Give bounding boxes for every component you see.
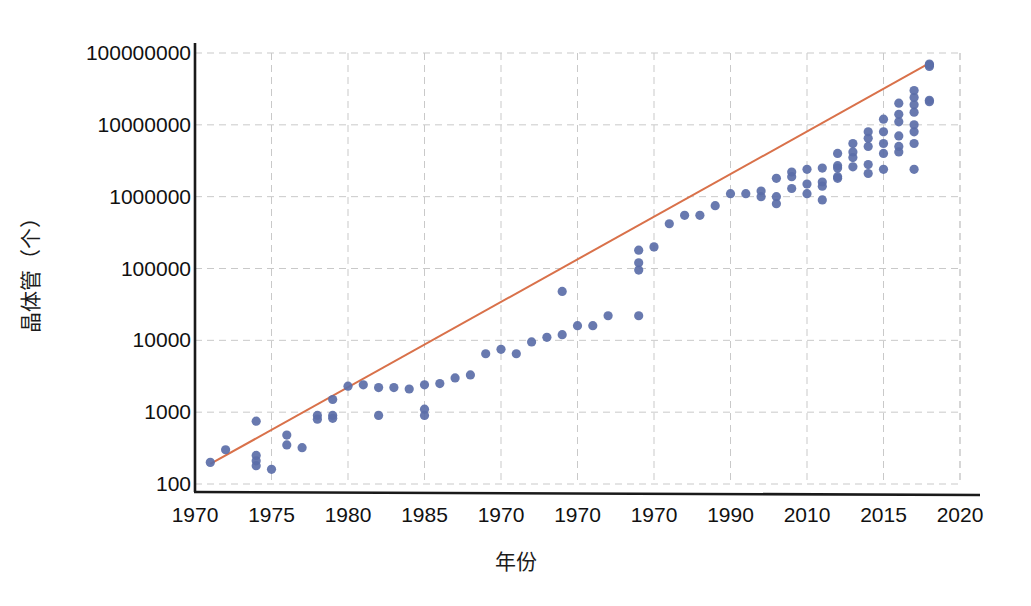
x-tick-label: 1975 — [248, 503, 295, 527]
data-point — [435, 379, 444, 388]
data-point — [818, 163, 827, 172]
data-point — [879, 139, 888, 148]
data-point — [787, 184, 796, 193]
data-point — [252, 417, 261, 426]
x-axis-tick-labels: 1970197519801985197019701970199020102015… — [0, 503, 1031, 535]
trendline-path — [210, 63, 929, 464]
data-point — [374, 411, 383, 420]
data-point — [726, 189, 735, 198]
data-point — [359, 380, 368, 389]
data-point — [512, 349, 521, 358]
data-point — [910, 108, 919, 117]
data-point — [695, 211, 704, 220]
data-point — [665, 219, 674, 228]
y-tick-label: 1000000 — [3, 185, 191, 209]
data-point — [680, 211, 689, 220]
y-tick-label: 100 — [3, 472, 191, 496]
x-axis-title: 年份 — [0, 545, 1031, 575]
data-point — [818, 195, 827, 204]
data-point — [634, 311, 643, 320]
x-axis-line — [194, 492, 980, 495]
data-point — [925, 97, 934, 106]
data-point — [864, 160, 873, 169]
data-point — [848, 153, 857, 162]
data-point — [420, 380, 429, 389]
data-point — [894, 147, 903, 156]
data-point — [925, 62, 934, 71]
data-point — [405, 384, 414, 393]
x-tick-label: 1985 — [401, 503, 448, 527]
data-point — [910, 127, 919, 136]
data-point — [649, 242, 658, 251]
data-point — [787, 172, 796, 181]
x-tick-label: 2015 — [860, 503, 907, 527]
data-point — [374, 383, 383, 392]
data-point — [496, 345, 505, 354]
data-point — [864, 169, 873, 178]
data-point — [802, 179, 811, 188]
data-point — [542, 333, 551, 342]
x-tick-label: 1970 — [478, 503, 525, 527]
data-point — [848, 162, 857, 171]
x-tick-label: 1970 — [631, 503, 678, 527]
data-point — [833, 163, 842, 172]
y-tick-label: 100000 — [3, 257, 191, 281]
data-point — [221, 445, 230, 454]
data-point — [481, 349, 490, 358]
x-tick-label: 2020 — [937, 503, 984, 527]
x-tick-label: 1970 — [554, 503, 601, 527]
data-point — [864, 142, 873, 151]
data-point — [894, 99, 903, 108]
y-tick-label: 10000 — [3, 328, 191, 352]
data-point — [588, 321, 597, 330]
data-point — [267, 465, 276, 474]
data-point — [864, 134, 873, 143]
axis-lines — [194, 43, 980, 495]
data-point — [711, 201, 720, 210]
data-point — [420, 411, 429, 420]
data-point — [604, 311, 613, 320]
data-point — [298, 443, 307, 452]
data-point — [802, 165, 811, 174]
data-point — [206, 458, 215, 467]
data-point — [634, 266, 643, 275]
gridlines — [195, 53, 960, 484]
data-point — [879, 127, 888, 136]
data-point — [894, 117, 903, 126]
data-point — [772, 174, 781, 183]
data-point — [848, 139, 857, 148]
data-point — [573, 321, 582, 330]
data-point — [879, 165, 888, 174]
y-tick-label: 100000000 — [3, 41, 191, 65]
data-point — [527, 337, 536, 346]
data-point — [328, 395, 337, 404]
y-tick-label: 10000000 — [3, 113, 191, 137]
data-point — [833, 174, 842, 183]
data-point — [879, 149, 888, 158]
x-tick-label: 1990 — [707, 503, 754, 527]
data-point — [879, 115, 888, 124]
data-point — [451, 373, 460, 382]
data-point — [313, 415, 322, 424]
data-point — [558, 330, 567, 339]
data-point — [818, 182, 827, 191]
data-point — [343, 382, 352, 391]
data-point — [252, 461, 261, 470]
data-point — [741, 189, 750, 198]
x-tick-label: 1970 — [172, 503, 219, 527]
data-point — [772, 199, 781, 208]
data-point — [833, 149, 842, 158]
data-point — [282, 440, 291, 449]
data-point — [894, 131, 903, 140]
chart-figure: 晶体管（个） 100000000100000001000000100000100… — [0, 0, 1031, 606]
data-point — [757, 186, 766, 195]
data-point — [634, 246, 643, 255]
data-point — [389, 383, 398, 392]
data-point — [910, 139, 919, 148]
x-tick-label: 1980 — [325, 503, 372, 527]
data-point — [282, 430, 291, 439]
data-point — [802, 189, 811, 198]
data-point — [558, 287, 567, 296]
data-point — [328, 414, 337, 423]
data-point — [910, 165, 919, 174]
